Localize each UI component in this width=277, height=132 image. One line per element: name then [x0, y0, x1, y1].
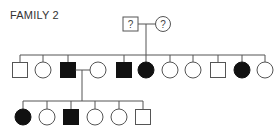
gen2-female-unaffected-symbol — [185, 62, 201, 78]
gen2-female-unaffected-symbol — [35, 62, 51, 78]
generation-2 — [13, 55, 274, 101]
gen2-male-unaffected-symbol — [13, 63, 28, 78]
gen2-female-affected-symbol — [234, 62, 250, 78]
gen1-father-label: ? — [128, 19, 134, 30]
gen1-mother-label: ? — [160, 19, 166, 30]
gen3-female-unaffected-symbol — [87, 109, 103, 125]
gen3-male-affected-symbol — [64, 110, 79, 125]
generation-3 — [15, 101, 151, 125]
gen3-male-unaffected-symbol — [136, 110, 151, 125]
gen2-female-unaffected-symbol — [90, 62, 106, 78]
gen2-male-affected-symbol — [117, 63, 132, 78]
pedigree-chart: ? ? — [0, 0, 277, 132]
gen2-female-unaffected-symbol — [257, 62, 273, 78]
gen2-male-affected-symbol — [61, 63, 76, 78]
gen2-male-unaffected-symbol — [211, 63, 226, 78]
gen3-female-unaffected-symbol — [39, 109, 55, 125]
gen3-female-affected-symbol — [15, 109, 31, 125]
gen3-female-unaffected-symbol — [111, 109, 127, 125]
gen2-female-unaffected-symbol — [162, 62, 178, 78]
gen2-female-affected-symbol — [138, 62, 154, 78]
